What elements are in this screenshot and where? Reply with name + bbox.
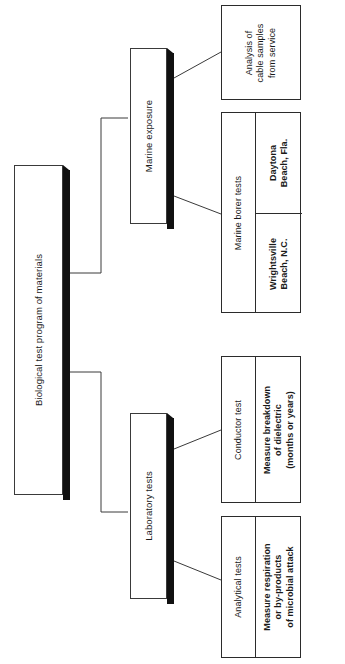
root-depth-shadow [63, 170, 70, 500]
node-marine-exposure[interactable]: Marine exposure [130, 48, 174, 224]
node-laboratory-tests[interactable]: Laboratory tests [130, 413, 174, 599]
marine-exposure-label: Marine exposure [143, 100, 155, 172]
root-face: Biological test program of materials [14, 165, 63, 495]
marine-borer-tests-title-cell: Marine borer tests [222, 113, 255, 312]
laboratory-tests-face: Laboratory tests [130, 413, 167, 599]
marine-borer-site-wrightsville[interactable]: Wrightsville Beach, N.C. [256, 214, 302, 314]
conductor-test-title-cell: Conductor test [222, 357, 255, 502]
node-root[interactable]: Biological test program of materials [14, 165, 70, 495]
marine-borer-site-daytona[interactable]: Daytona Beach, Fla. [256, 113, 302, 213]
analytical-tests-detail-cell: Measure respiration or by-products of mi… [256, 517, 302, 657]
analytical-tests-label: Analytical tests [233, 556, 244, 618]
laboratory-tests-label: Laboratory tests [143, 471, 155, 541]
flowchart-diagram: Biological test program of materials Mar… [0, 0, 345, 664]
conductor-test-detail-label: Measure breakdown of dielectric (months … [262, 385, 296, 473]
analytical-tests-title-cell: Analytical tests [222, 517, 255, 657]
laboratory-tests-depth-shadow [167, 418, 174, 604]
marine-borer-site-daytona-label: Daytona Beach, Fla. [268, 139, 291, 188]
node-marine-borer-tests[interactable]: Marine borer tests Daytona Beach, Fla. W… [221, 112, 301, 313]
analysis-of-cable-samples-label: Analysis of cable samples from service [244, 23, 278, 82]
marine-exposure-face: Marine exposure [130, 48, 167, 224]
node-analytical-tests[interactable]: Analytical tests Measure respiration or … [221, 516, 301, 658]
node-conductor-test[interactable]: Conductor test Measure breakdown of diel… [221, 356, 301, 503]
marine-borer-site-wrightsville-label: Wrightsville Beach, N.C. [268, 238, 291, 290]
conductor-test-label: Conductor test [233, 400, 244, 460]
root-label: Biological test program of materials [33, 254, 45, 406]
marine-borer-tests-label: Marine borer tests [233, 175, 244, 249]
marine-exposure-depth-shadow [167, 53, 174, 229]
conductor-test-detail-cell: Measure breakdown of dielectric (months … [256, 357, 302, 502]
analytical-tests-detail-label: Measure respiration or by-products of mi… [262, 543, 296, 630]
node-analysis-of-cable-samples[interactable]: Analysis of cable samples from service [221, 5, 301, 100]
